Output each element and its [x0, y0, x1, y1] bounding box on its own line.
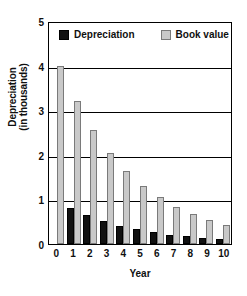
x-axis-tick-label: 4: [115, 248, 132, 264]
bar-book-value: [57, 66, 64, 244]
depreciation-book-value-chart: Depreciation (in thousands) 543210 Depre…: [0, 0, 247, 296]
x-axis-tick-labels: 012345678910: [48, 248, 232, 264]
bar-depreciation: [67, 208, 74, 244]
y-axis-tick-label: 1: [28, 195, 44, 206]
bar-groups: [49, 23, 231, 244]
bar-book-value: [140, 186, 147, 244]
bar-group: [214, 23, 231, 244]
x-axis-tick-label: 1: [65, 248, 82, 264]
bar-depreciation: [150, 232, 157, 244]
plot-area: Depreciation Book value: [48, 22, 232, 245]
bar-depreciation: [183, 236, 190, 244]
y-axis-tick-label: 3: [28, 106, 44, 117]
bar-group: [49, 23, 66, 244]
bar-book-value: [206, 220, 213, 244]
x-axis-title: Year: [48, 268, 232, 279]
x-axis-tick-label: 2: [81, 248, 98, 264]
bar-group: [132, 23, 149, 244]
bar-depreciation: [216, 239, 223, 244]
y-axis-tick-labels: 543210: [24, 0, 44, 296]
bar-depreciation: [199, 238, 206, 244]
bar-group: [115, 23, 132, 244]
x-axis-tick-label: 6: [148, 248, 165, 264]
bar-book-value: [74, 101, 81, 244]
x-axis-tick-label: 9: [199, 248, 216, 264]
bar-group: [82, 23, 99, 244]
bar-group: [181, 23, 198, 244]
x-axis-tick-label: 3: [98, 248, 115, 264]
bar-book-value: [123, 171, 130, 244]
y-axis-tick-label: 5: [28, 17, 44, 28]
bar-book-value: [107, 153, 114, 244]
bar-depreciation: [116, 226, 123, 244]
x-axis-tick-label: 5: [132, 248, 149, 264]
bar-depreciation: [100, 221, 107, 244]
y-axis-tick-label: 2: [28, 150, 44, 161]
bar-book-value: [190, 214, 197, 244]
bar-depreciation: [133, 229, 140, 244]
x-axis-tick-label: 7: [165, 248, 182, 264]
y-axis-tick-label: 0: [28, 240, 44, 251]
bar-book-value: [157, 197, 164, 244]
x-axis-tick-label: 10: [215, 248, 232, 264]
bar-depreciation: [83, 215, 90, 244]
bar-book-value: [90, 130, 97, 244]
bar-depreciation: [166, 235, 173, 244]
y-axis-title-line-1: Depreciation: [7, 67, 19, 126]
bar-book-value: [173, 207, 180, 244]
bar-group: [198, 23, 215, 244]
bar-group: [165, 23, 182, 244]
x-axis-tick-label: 8: [182, 248, 199, 264]
bar-group: [99, 23, 116, 244]
y-axis-tick-label: 4: [28, 61, 44, 72]
x-axis-tick-label: 0: [48, 248, 65, 264]
bar-book-value: [223, 225, 230, 244]
bar-group: [66, 23, 83, 244]
bar-group: [148, 23, 165, 244]
